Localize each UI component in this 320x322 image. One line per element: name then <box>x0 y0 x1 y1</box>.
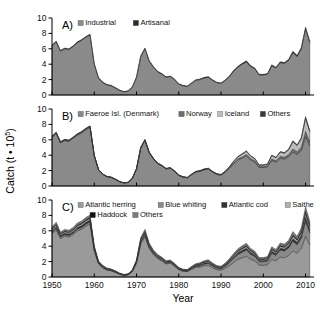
panel-letter-B: B) <box>62 110 73 122</box>
legend-swatch-haddock <box>90 212 95 217</box>
y-tick-label: 4 <box>42 241 47 251</box>
panel-letter-C: C) <box>62 201 74 213</box>
y-tick-label: 2 <box>42 166 47 176</box>
three-panel-catch-chart: 0246810A)IndustrialArtisanal0246810B)Fae… <box>0 0 320 322</box>
legend-label-others: Others <box>267 109 290 118</box>
legend-label-blue-whiting: Blue whiting <box>165 200 206 209</box>
x-tick-label: 1960 <box>85 280 104 290</box>
legend-label-faeroe-isl-denmark-: Faeroe Isl. (Denmark) <box>85 109 159 118</box>
y-tick-label: 2 <box>42 257 47 267</box>
legend-swatch-faeroe-isl-denmark- <box>78 111 83 116</box>
legend-swatch-others <box>260 111 265 116</box>
legend-swatch-industrial <box>78 20 83 25</box>
y-tick-label: 6 <box>42 135 47 145</box>
x-tick-label: 1990 <box>212 280 231 290</box>
x-axis-title: Year <box>172 292 194 304</box>
legend-label-others: Others <box>140 210 163 219</box>
legend-swatch-atlantic-cod <box>222 202 227 207</box>
legend-swatch-atlantic-herring <box>78 202 83 207</box>
x-tick-label: 1950 <box>43 280 62 290</box>
legend-swatch-norway <box>179 111 184 116</box>
legend-label-saithe: Saithe <box>292 200 314 209</box>
panel-letter-A: A) <box>62 19 73 31</box>
legend-label-iceland: Iceland <box>225 109 250 118</box>
y-tick-label: 8 <box>42 119 47 129</box>
x-tick-label: 1980 <box>169 280 188 290</box>
y-tick-label: 8 <box>42 28 47 38</box>
x-tick-label: 1970 <box>127 280 146 290</box>
legend-label-norway: Norway <box>186 109 212 118</box>
y-tick-label: 4 <box>42 150 47 160</box>
y-tick-label: 10 <box>37 104 47 114</box>
y-tick-label: 6 <box>42 44 47 54</box>
y-tick-label: 0 <box>42 90 47 100</box>
legend-label-atlantic-cod: Atlantic cod <box>229 200 268 209</box>
legend-swatch-saithe <box>285 202 290 207</box>
legend-label-atlantic-herring: Atlantic herring <box>85 200 136 209</box>
legend-label-industrial: Industrial <box>85 18 116 27</box>
figure-container: 0246810A)IndustrialArtisanal0246810B)Fae… <box>0 0 320 322</box>
y-axis-title-text: Catch (t • 105) <box>4 128 16 193</box>
panel-B: 0246810B)Faeroe Isl. (Denmark)NorwayIcel… <box>37 104 314 191</box>
legend-label-haddock: Haddock <box>97 210 127 219</box>
y-tick-label: 2 <box>42 75 47 85</box>
y-tick-label: 4 <box>42 59 47 69</box>
y-tick-label: 8 <box>42 210 47 220</box>
y-tick-label: 10 <box>37 13 47 23</box>
x-tick-label: 2010 <box>296 280 315 290</box>
panel-A: 0246810A)IndustrialArtisanal <box>37 13 314 100</box>
legend-swatch-others <box>133 212 138 217</box>
panel-C: 0246810C)Atlantic herringBlue whitingAtl… <box>37 195 314 282</box>
legend-swatch-iceland <box>217 111 222 116</box>
y-tick-label: 6 <box>42 226 47 236</box>
legend-swatch-blue-whiting <box>158 202 163 207</box>
y-tick-label: 10 <box>37 195 47 205</box>
legend-label-artisanal: Artisanal <box>140 18 170 27</box>
y-axis-title: Catch (t • 105) <box>4 128 16 193</box>
y-tick-label: 0 <box>42 181 47 191</box>
x-tick-label: 2000 <box>254 280 273 290</box>
legend-swatch-artisanal <box>133 20 138 25</box>
